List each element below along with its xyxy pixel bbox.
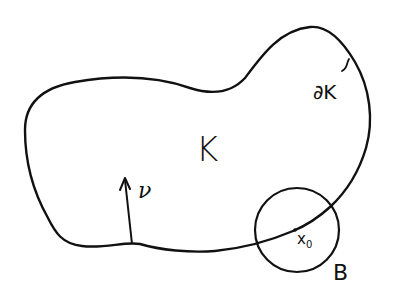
boundary-tick-icon: [342, 59, 349, 71]
label-ball: B: [333, 262, 348, 284]
label-point-x: x: [297, 230, 306, 248]
normal-arrow-shaft: [125, 180, 132, 244]
label-normal: ν: [138, 180, 151, 202]
label-point-x0: x0: [297, 232, 312, 250]
label-set-k: K: [196, 132, 218, 166]
label-point-subscript: 0: [306, 239, 312, 250]
label-boundary: ∂K: [313, 82, 336, 102]
